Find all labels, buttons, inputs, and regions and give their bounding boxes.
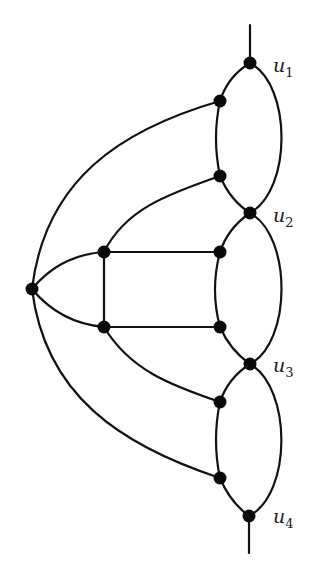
edge-u2-sqtr [220, 213, 250, 252]
edge-hub-a [32, 101, 220, 289]
edge-c-d [216, 402, 220, 478]
node-square-top-left [98, 246, 111, 259]
edge-u3-u4-right [249, 364, 281, 516]
node-d [214, 472, 227, 485]
node-b [214, 170, 227, 183]
graph-diagram: u1 u2 u3 u4 [0, 0, 319, 581]
edge-a-b [216, 101, 220, 176]
edge-hub-d [32, 289, 220, 478]
edge-u1-a [220, 63, 250, 101]
node-u4 [243, 510, 256, 523]
nodes [26, 57, 257, 523]
labels: u1 u2 u3 u4 [273, 54, 294, 531]
edge-d-u4 [220, 478, 249, 516]
edge-sqtl-b [104, 176, 220, 252]
label-u4: u4 [273, 505, 294, 531]
edge-hub-sqtl [32, 252, 104, 289]
edge-u2-u3-right [250, 213, 282, 364]
node-square-top-right [214, 246, 227, 259]
edge-sqtr-sqbr [215, 252, 220, 327]
edge-sqbr-u3 [220, 327, 250, 364]
edge-b-u2 [220, 176, 250, 213]
edge-sqbl-c [104, 327, 220, 402]
node-hub [26, 283, 39, 296]
label-u2: u2 [273, 204, 294, 230]
node-u3 [244, 358, 257, 371]
node-a [214, 95, 227, 108]
edge-u1-u2-right [250, 63, 282, 213]
label-u1: u1 [273, 54, 294, 80]
node-square-bottom-right [214, 321, 227, 334]
edges [32, 25, 282, 553]
node-u2 [244, 207, 257, 220]
edge-u3-c [220, 364, 250, 402]
node-square-bottom-left [98, 321, 111, 334]
node-u1 [244, 57, 257, 70]
node-c [214, 396, 227, 409]
label-u3: u3 [273, 354, 294, 380]
edge-hub-sqbl [32, 289, 104, 327]
